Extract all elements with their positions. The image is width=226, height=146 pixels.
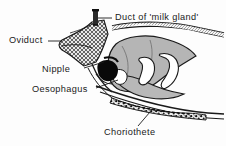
oviduct-wall xyxy=(59,20,108,66)
milk-gland-duct xyxy=(92,9,99,25)
anatomical-figure: Duct of 'milk gland' Oviduct Nipple Oeso… xyxy=(0,0,226,146)
leader-choriothete xyxy=(138,112,150,126)
label-choriothete: Choriothete xyxy=(104,128,155,137)
label-duct-of-milk-gland: Duct of 'milk gland' xyxy=(115,13,199,22)
label-oesophagus: Oesophagus xyxy=(32,85,88,94)
label-nipple: Nipple xyxy=(42,65,70,74)
label-oviduct: Oviduct xyxy=(9,36,43,45)
